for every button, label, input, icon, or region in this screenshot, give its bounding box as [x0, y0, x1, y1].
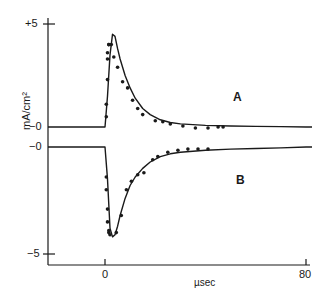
data-point-a	[121, 80, 125, 84]
y-axis-title: mA/cm²	[20, 81, 32, 141]
data-point-a	[131, 98, 135, 102]
y-tick-label-minus5: −5	[27, 248, 40, 259]
curve-label-b: B	[236, 174, 245, 186]
data-point-b	[166, 151, 170, 155]
y-tick-label-plus5: +5	[25, 18, 38, 29]
data-point-b	[115, 231, 119, 235]
data-point-a	[106, 57, 110, 61]
data-point-b	[156, 155, 160, 159]
data-point-a	[136, 107, 140, 111]
data-point-b	[105, 175, 109, 179]
data-point-b	[106, 207, 110, 211]
data-point-b	[130, 179, 134, 183]
data-point-a	[106, 78, 110, 82]
data-point-a	[105, 115, 109, 119]
x-tick-label-0: 0	[102, 269, 108, 280]
chart-figure	[0, 0, 327, 301]
data-point-a	[126, 86, 130, 90]
data-point-b	[176, 148, 180, 152]
data-point-b	[196, 147, 200, 151]
data-point-a	[112, 55, 116, 59]
data-point-a	[161, 120, 165, 124]
data-point-b	[206, 147, 210, 151]
y-tick-label-zero-b: −0	[29, 141, 42, 152]
data-point-b	[142, 171, 146, 175]
data-point-a	[116, 66, 120, 70]
data-point-a	[206, 126, 210, 130]
data-point-b	[136, 173, 140, 177]
data-point-b	[106, 220, 110, 224]
data-point-a	[169, 122, 173, 126]
data-point-b	[120, 214, 124, 218]
curve-b	[48, 147, 312, 237]
data-point-a	[110, 43, 114, 47]
data-point-a	[106, 51, 110, 55]
data-point-a	[105, 103, 109, 107]
data-point-a	[141, 113, 145, 117]
data-point-b	[108, 233, 112, 237]
data-point-a	[154, 119, 158, 123]
data-point-b	[105, 188, 109, 192]
x-tick-label-80: 80	[299, 269, 311, 280]
series-layer	[48, 34, 312, 237]
data-point-a	[194, 126, 198, 130]
data-point-b	[151, 158, 155, 162]
data-point-a	[181, 124, 185, 128]
data-point-a	[216, 125, 220, 129]
data-point-b	[186, 147, 190, 151]
data-point-b	[125, 188, 129, 192]
curve-label-a: A	[233, 91, 242, 103]
data-point-a	[221, 125, 225, 129]
curve-a	[48, 34, 312, 127]
x-axis-title: µsec	[194, 278, 215, 288]
